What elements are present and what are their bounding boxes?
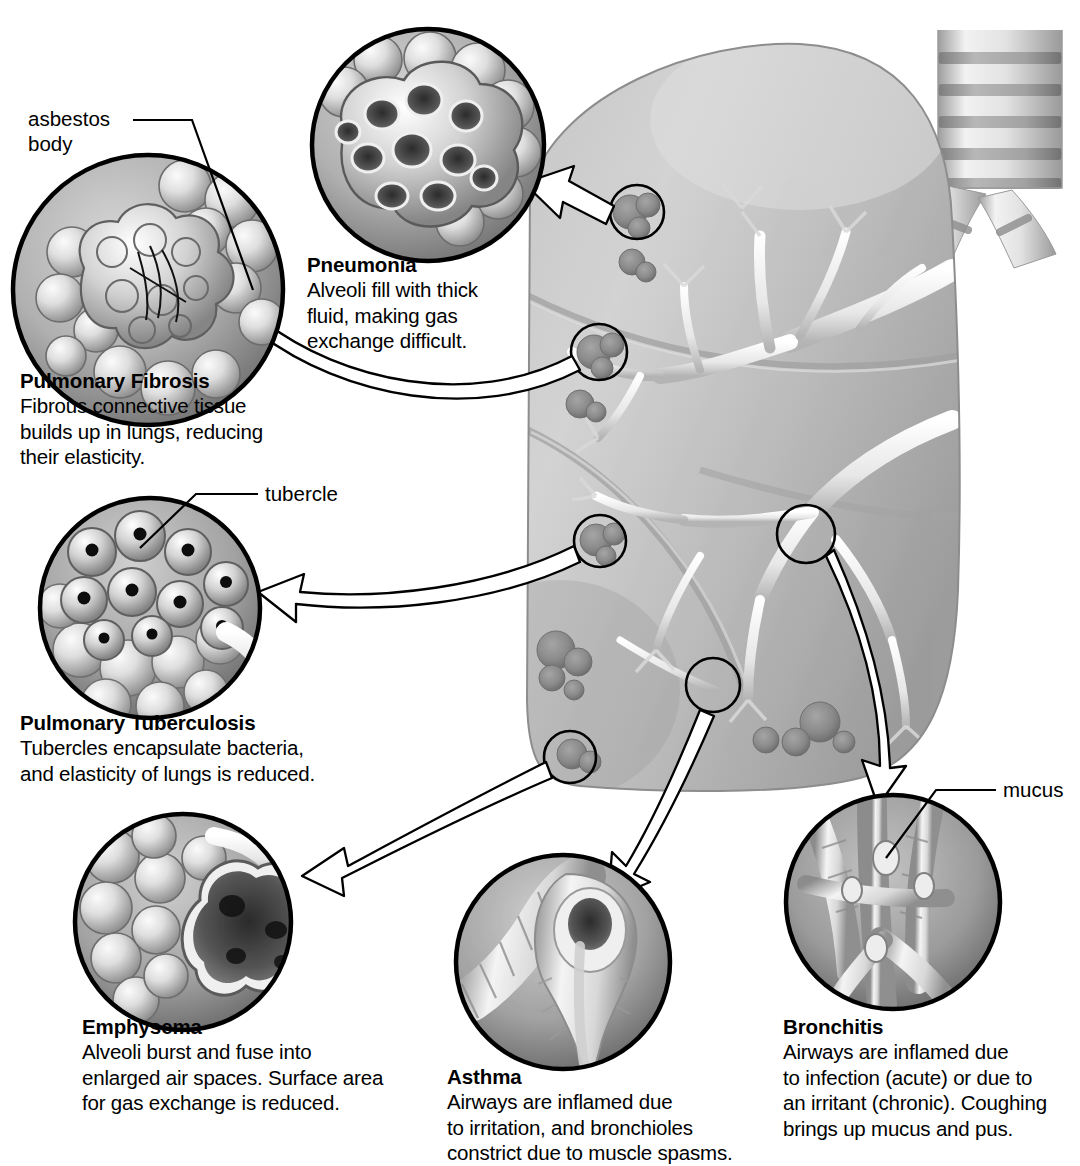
callout-description-asthma: Airways are inflamed due to irritation, … [447,1089,787,1166]
leader-label-asbestos-body: asbestos body [28,106,110,156]
callout-pulmonary-fibrosis: Pulmonary Fibrosis Fibrous connective ti… [20,368,330,470]
leader-label-tubercle: tubercle [265,481,338,506]
callout-pneumonia: Pneumonia Alveoli fill with thick fluid,… [307,252,557,354]
callout-description-pneumonia: Alveoli fill with thick fluid, making ga… [307,277,557,354]
inset-bronchitis [786,795,1000,1010]
callout-bronchitis: Bronchitis Airways are inflamed due to i… [783,1014,1080,1141]
inset-asthma [456,855,670,1079]
inset-emphysema [75,814,314,1030]
callout-description-bronchitis: Airways are inflamed due to infection (a… [783,1039,1080,1141]
inset-pneumonia [312,29,544,261]
callout-description-pulmonary-fibrosis: Fibrous connective tissue builds up in l… [20,393,330,470]
callout-title-asthma: Asthma [447,1064,787,1089]
callout-title-bronchitis: Bronchitis [783,1014,1080,1039]
inset-pulmonary-tuberculosis [38,498,268,730]
callout-title-pulmonary-tuberculosis: Pulmonary Tuberculosis [20,710,380,735]
callout-asthma: Asthma Airways are inflamed due to irrit… [447,1064,787,1166]
callout-emphysema: Emphysema Alveoli burst and fuse into en… [82,1014,432,1116]
callout-title-emphysema: Emphysema [82,1014,432,1039]
trachea [938,30,1062,189]
callout-description-pulmonary-tuberculosis: Tubercles encapsulate bacteria, and elas… [20,735,380,786]
leader-label-mucus: mucus [1003,777,1063,802]
callout-pulmonary-tuberculosis: Pulmonary Tuberculosis Tubercles encapsu… [20,710,380,786]
callout-title-pulmonary-fibrosis: Pulmonary Fibrosis [20,368,330,393]
callout-title-pneumonia: Pneumonia [307,252,557,277]
callout-description-emphysema: Alveoli burst and fuse into enlarged air… [82,1039,432,1116]
